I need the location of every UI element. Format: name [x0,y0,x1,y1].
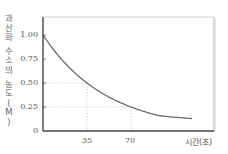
y-axis-label-char: 화 [2,33,16,43]
y-tick-0.50: 0.50 [20,78,38,87]
guide-lines [43,83,131,131]
y-axis-label: 과산화수소의농도(M) [2,14,16,128]
y-axis-label-char: ) [2,118,16,128]
y-tick-1.00: 1.00 [20,30,38,39]
y-tick-0.75: 0.75 [20,54,38,63]
x-tick-35: 35 [77,136,97,145]
x-axis-label: 시간(초) [185,136,212,147]
concentration-curve [43,35,192,119]
y-tick-0: 0 [33,126,38,135]
x-tick-70: 70 [120,136,140,145]
y-axis-label-char: 의 [2,66,16,76]
y-tick-0.25: 0.25 [20,102,38,111]
